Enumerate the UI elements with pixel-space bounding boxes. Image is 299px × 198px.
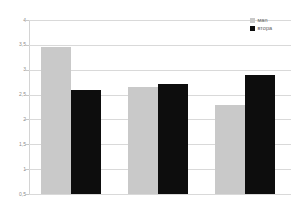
y-axis-tick-label: 2 [2,117,26,122]
bar [215,105,245,194]
y-axis-tick-label: 0,5 [2,192,26,197]
y-axis-tick-label: 3 [2,67,26,72]
bar [41,47,71,194]
legend-item[interactable]: маn [250,17,272,23]
legend-item[interactable]: втора [250,25,272,31]
bar [245,75,275,194]
legend: маnвтора [250,17,272,31]
bar [128,87,158,194]
bar-chart: 43,532,521,510,5 маnвтора [0,0,299,198]
bar [71,90,101,194]
legend-item-label: втора [258,25,272,31]
bar [158,84,188,194]
gridline [29,45,291,46]
legend-swatch-icon [250,26,255,31]
y-axis-tick-label: 1,5 [2,142,26,147]
plot-area [29,20,291,194]
y-axis-tick-label: 1 [2,167,26,172]
y-axis-tick-label: 3,5 [2,42,26,47]
legend-item-label: маn [258,17,268,23]
y-axis-tick-label: 4 [2,18,26,23]
legend-swatch-icon [250,18,255,23]
gridline [29,194,291,195]
y-axis-tick-label: 2,5 [2,92,26,97]
